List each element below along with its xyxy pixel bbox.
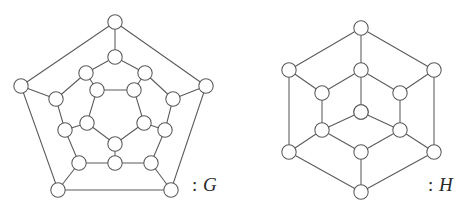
graph-edge xyxy=(21,22,115,86)
graph-vertex xyxy=(138,66,152,80)
graph-vertex xyxy=(108,15,122,29)
graph-vertex xyxy=(354,145,368,159)
graph-vertex xyxy=(282,145,296,159)
graph-vertex xyxy=(79,66,93,80)
graph-vertex xyxy=(144,156,158,170)
graph-edge xyxy=(289,152,361,192)
graph-vertex xyxy=(108,137,122,151)
graph-vertex xyxy=(72,156,86,170)
graph-edge xyxy=(289,28,361,70)
graph-vertex xyxy=(90,83,104,97)
graph-vertex xyxy=(354,105,368,119)
graph-vertex xyxy=(315,86,329,100)
graph-vertex xyxy=(282,63,296,77)
graph-vertex xyxy=(108,50,122,64)
graph-vertex xyxy=(427,63,441,77)
graph-vertex xyxy=(199,79,213,93)
graph-edge xyxy=(115,22,206,86)
graph-g-label-separator: : xyxy=(192,174,198,195)
graph-vertex xyxy=(14,79,28,93)
graph-vertex xyxy=(354,185,368,199)
graph-vertex xyxy=(354,63,368,77)
graph-g-label: : G xyxy=(192,174,217,196)
graph-h-label-separator: : xyxy=(428,174,434,195)
graph-vertex xyxy=(158,123,172,137)
graph-vertex xyxy=(137,116,151,130)
graph-h-label: : H xyxy=(428,174,453,196)
graph-vertex xyxy=(49,92,63,106)
graph-h-label-name: H xyxy=(439,174,453,195)
graph-vertex xyxy=(427,145,441,159)
graph-vertex xyxy=(166,92,180,106)
graph-vertex xyxy=(354,21,368,35)
graph-vertex xyxy=(80,116,94,130)
graph-edge xyxy=(361,152,434,192)
graph-vertex xyxy=(164,183,178,197)
graph-vertex xyxy=(127,83,141,97)
graph-vertex xyxy=(58,123,72,137)
graph-vertex xyxy=(393,123,407,137)
graph-vertex xyxy=(315,123,329,137)
graph-g-label-name: G xyxy=(203,174,217,195)
graph-vertex xyxy=(393,86,407,100)
figure-root: : G : H xyxy=(0,0,470,214)
graph-vertex xyxy=(51,183,65,197)
graph-edge xyxy=(361,28,434,70)
graph-vertex xyxy=(108,156,122,170)
graph-g-vertices xyxy=(14,15,213,197)
